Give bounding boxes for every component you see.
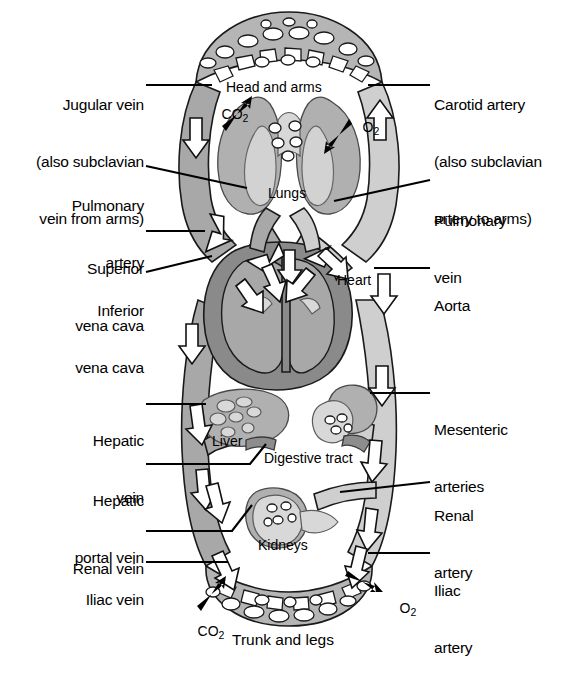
label-carotid-artery-line2: (also subclavian bbox=[434, 152, 578, 171]
label-co2-head: CO2 bbox=[206, 90, 248, 138]
label-kidneys: Kidneys bbox=[258, 537, 308, 553]
label-iliac-artery-line2: artery bbox=[434, 638, 578, 657]
co2-trunk-sub: 2 bbox=[219, 629, 225, 641]
o2-head-text: O bbox=[363, 119, 374, 135]
label-lungs: Lungs bbox=[268, 185, 306, 201]
label-iliac-artery: Iliac artery bbox=[434, 543, 578, 683]
label-iliac-vein-line1: Iliac vein bbox=[0, 590, 144, 609]
label-iliac-vein: Iliac vein bbox=[0, 552, 144, 647]
label-inferior-vena-cava-line1: Inferior bbox=[0, 301, 144, 320]
label-jugular-vein-line1: Jugular vein bbox=[0, 95, 144, 114]
label-aorta-line1: Aorta bbox=[434, 296, 578, 315]
co2-trunk-text: CO bbox=[198, 623, 219, 639]
o2-trunk-sub: 2 bbox=[410, 606, 416, 618]
label-hepatic-vein-line1: Hepatic bbox=[0, 431, 144, 450]
label-trunk-and-legs: Trunk and legs bbox=[232, 631, 334, 649]
head-capillary-bed bbox=[196, 12, 382, 82]
co2-head-sub: 2 bbox=[243, 112, 249, 124]
label-pulmonary-artery-line1: Pulmonary bbox=[0, 196, 144, 215]
label-hepatic-portal-vein-line1: Hepatic bbox=[0, 491, 144, 510]
label-renal-artery-line1: Renal bbox=[434, 506, 578, 525]
label-o2-head: O2 bbox=[347, 103, 379, 151]
label-digestive-tract: Digestive tract bbox=[264, 450, 353, 466]
circulatory-system-diagram: .vein { fill:#a8a8a8; stroke:#1a1a1a; st… bbox=[0, 0, 578, 683]
label-o2-trunk: O2 bbox=[384, 584, 416, 632]
label-co2-trunk: CO2 bbox=[182, 607, 224, 655]
o2-trunk-text: O bbox=[400, 600, 411, 616]
digestive-tract-organ bbox=[312, 385, 377, 452]
label-liver: Liver bbox=[212, 433, 242, 449]
o2-head-sub: 2 bbox=[373, 125, 379, 137]
co2-head-text: CO bbox=[222, 106, 243, 122]
label-heart: Heart bbox=[337, 272, 371, 288]
label-inferior-vena-cava-line2: vena cava bbox=[0, 358, 144, 377]
leader-inferior-vena-cava bbox=[146, 256, 212, 272]
label-carotid-artery-line1: Carotid artery bbox=[434, 95, 578, 114]
label-iliac-artery-line1: Iliac bbox=[434, 581, 578, 600]
label-mesenteric-arteries-line1: Mesenteric bbox=[434, 420, 578, 439]
label-aorta: Aorta bbox=[434, 258, 578, 353]
label-pulmonary-vein-line1: Pulmonary bbox=[434, 211, 578, 230]
